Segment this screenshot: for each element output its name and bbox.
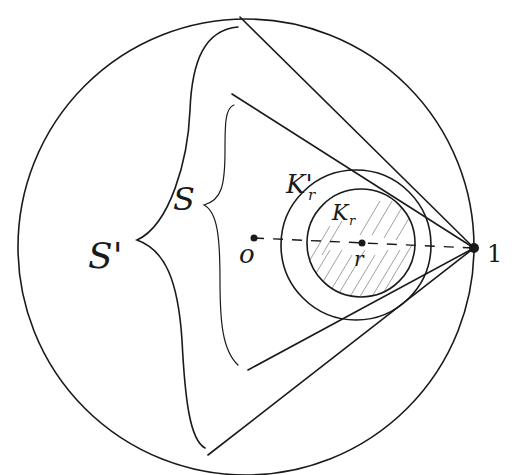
- label-r: r: [354, 247, 365, 271]
- label-s-prime: S': [88, 235, 123, 276]
- tangent-line-s-prime-upper: [240, 17, 474, 248]
- brace-s-prime: [137, 27, 238, 448]
- point-r: [359, 240, 366, 247]
- tangent-line-s-prime-lower: [208, 248, 474, 455]
- svg-text:K: K: [331, 200, 350, 225]
- label-1: 1: [487, 240, 502, 268]
- svg-text:r: r: [308, 186, 316, 204]
- svg-text:r: r: [349, 213, 356, 228]
- brace-s: [204, 105, 238, 365]
- label-k-r-prime: K' r: [285, 169, 316, 204]
- label-o: o: [239, 239, 255, 269]
- label-k-r: K r: [331, 200, 356, 228]
- label-s: S: [173, 180, 195, 218]
- diagram-svg: S' S K' r K r o r 1: [0, 0, 518, 475]
- diagram-canvas: S' S K' r K r o r 1: [0, 0, 518, 475]
